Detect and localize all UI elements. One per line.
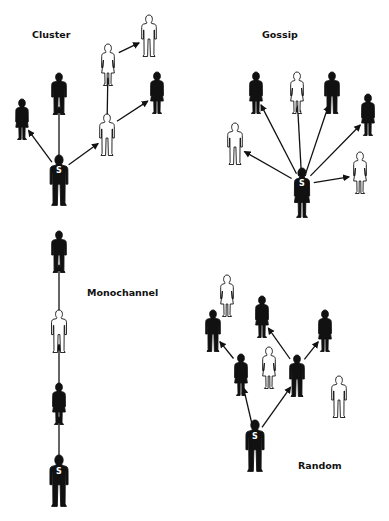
arrows-layer (29, 43, 361, 460)
source-marker: S (56, 166, 62, 175)
man-figure-icon (142, 15, 157, 57)
random-person-man-icon (332, 376, 347, 418)
arrow-gossip-s-to-p1 (245, 152, 292, 179)
woman-figure-icon (263, 347, 276, 389)
source-marker: S (252, 432, 258, 441)
man-figure-icon (206, 310, 221, 352)
woman-figure-icon (250, 72, 263, 114)
arrow-random-s-to-p2 (262, 387, 291, 427)
random-person-woman-icon (256, 296, 269, 338)
arrow-cluster-p3-to-p6 (117, 101, 148, 121)
man-figure-icon (50, 155, 68, 205)
arrow-cluster-s-to-p3 (69, 144, 98, 165)
arrow-cluster-p4-to-p5 (119, 43, 139, 53)
man-figure-icon (290, 355, 305, 397)
gossip-person-woman-icon (250, 72, 263, 114)
man-figure-icon (325, 72, 340, 114)
gossip-source-woman-icon: S (294, 168, 309, 217)
woman-figure-icon (235, 354, 248, 396)
source-marker: S (56, 467, 62, 476)
cluster-person-man-icon (100, 114, 115, 156)
woman-figure-icon (362, 94, 375, 136)
panel-label-monochannel: Monochannel (87, 287, 158, 298)
monochannel-source-man-icon: S (50, 455, 68, 506)
panel-label-gossip: Gossip (262, 29, 298, 40)
gossip-person-woman-icon (362, 94, 375, 136)
woman-figure-icon (294, 168, 309, 217)
random-person-man-icon (290, 355, 305, 397)
gossip-person-man-icon (228, 123, 243, 165)
arrow-cluster-s-to-p1 (29, 130, 52, 162)
cluster-person-woman-icon (151, 72, 164, 114)
woman-figure-icon (151, 72, 164, 114)
people-layer: SSSS (16, 15, 375, 506)
source-marker: S (299, 179, 305, 188)
panel-label-cluster: Cluster (32, 29, 71, 40)
random-source-man-icon: S (246, 420, 264, 471)
cluster-person-man-icon (142, 15, 157, 57)
arrow-random-s-to-p1 (244, 388, 253, 426)
woman-figure-icon (354, 152, 367, 194)
random-person-man-icon (206, 310, 221, 352)
gossip-person-woman-icon (291, 72, 304, 114)
arrow-gossip-s-to-p6 (314, 177, 349, 183)
arrow-random-p2-to-p7 (304, 342, 318, 360)
cluster-source-man-icon: S (50, 155, 68, 205)
man-figure-icon (332, 376, 347, 418)
woman-figure-icon (221, 275, 234, 317)
arrow-gossip-s-to-p5 (310, 125, 360, 176)
random-person-woman-icon (263, 347, 276, 389)
arrow-random-p1-to-p3 (220, 342, 234, 359)
random-person-woman-icon (319, 310, 332, 352)
woman-figure-icon (319, 310, 332, 352)
woman-figure-icon (16, 99, 29, 140)
arrow-gossip-s-to-p4 (306, 106, 329, 174)
woman-figure-icon (291, 72, 304, 114)
gossip-person-woman-icon (354, 152, 367, 194)
woman-figure-icon (256, 296, 269, 338)
cluster-person-woman-icon (16, 99, 29, 140)
panel-label-random: Random (298, 460, 342, 471)
man-figure-icon (100, 114, 115, 156)
man-figure-icon (246, 420, 264, 471)
gossip-person-man-icon (325, 72, 340, 114)
random-person-woman-icon (235, 354, 248, 396)
man-figure-icon (228, 123, 243, 165)
rumor-transmission-diagram: Cluster Gossip Monochannel Random SSSS (0, 0, 389, 521)
arrow-gossip-s-to-p3 (298, 106, 302, 172)
random-person-woman-icon (221, 275, 234, 317)
man-figure-icon (50, 455, 68, 506)
